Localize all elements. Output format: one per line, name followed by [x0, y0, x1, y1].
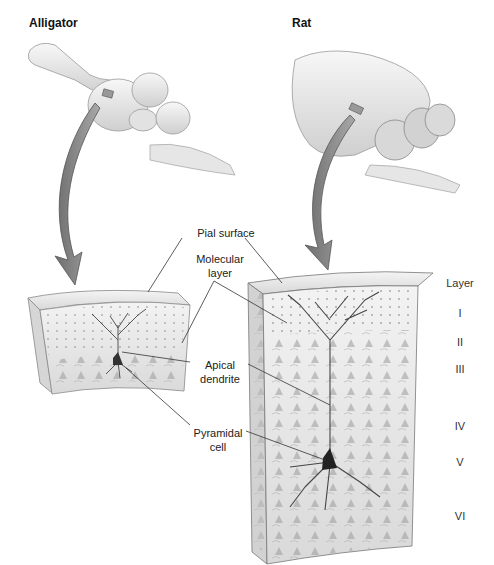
alligator-arrow: [55, 103, 100, 285]
diagram-canvas: [0, 0, 494, 565]
alligator-brain-illustration: [28, 43, 235, 175]
molecular-text-1: Molecular: [190, 252, 250, 266]
layer-I: I: [440, 307, 480, 319]
layer-V: V: [440, 456, 480, 468]
label-molecular-layer: Molecular layer: [190, 252, 250, 280]
layer-III: III: [440, 363, 480, 375]
label-pyramidal-cell: Pyramidal cell: [188, 426, 248, 454]
apical-text-1: Apical: [192, 358, 248, 372]
pial-surface-text: Pial surface: [197, 227, 254, 239]
label-pial-surface: Pial surface: [186, 226, 266, 240]
alligator-title: Alligator: [29, 16, 78, 30]
pyramidal-text-1: Pyramidal: [188, 426, 248, 440]
alligator-cortex-block: [28, 290, 190, 394]
molecular-text-2: layer: [190, 266, 250, 280]
rat-cortex-block: [248, 272, 433, 564]
layer-II: II: [440, 336, 480, 348]
layer-heading: Layer: [440, 277, 480, 289]
layer-VI: VI: [440, 510, 480, 522]
rat-title: Rat: [292, 16, 311, 30]
apical-text-2: dendrite: [192, 372, 248, 386]
pyramidal-text-2: cell: [188, 440, 248, 454]
layer-IV: IV: [440, 420, 480, 432]
label-apical-dendrite: Apical dendrite: [192, 358, 248, 386]
